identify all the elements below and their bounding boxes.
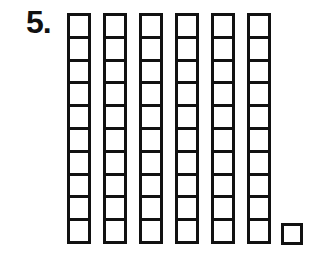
rod-cube xyxy=(214,16,232,39)
rod-cube xyxy=(70,221,88,241)
rod-cube xyxy=(106,221,124,241)
rod-cube xyxy=(214,84,232,107)
rod-cube xyxy=(178,221,196,241)
rod-cube xyxy=(250,84,268,107)
rod-cube xyxy=(142,84,160,107)
rod-cube xyxy=(142,39,160,62)
rod-cube xyxy=(106,198,124,221)
rod-cube xyxy=(250,130,268,153)
rod-cube xyxy=(106,62,124,85)
rod-cube xyxy=(70,16,88,39)
rod-cube xyxy=(250,198,268,221)
rod-cube xyxy=(142,153,160,176)
rod-cube xyxy=(106,39,124,62)
rod-cube xyxy=(214,221,232,241)
rod-cube xyxy=(106,130,124,153)
rod-cube xyxy=(250,176,268,199)
rod-cube xyxy=(178,84,196,107)
rod-cube xyxy=(106,176,124,199)
unit-cube xyxy=(281,223,303,245)
rod-cube xyxy=(214,198,232,221)
rod-cube xyxy=(250,16,268,39)
rod-cube xyxy=(250,221,268,241)
rod-cube xyxy=(70,176,88,199)
rod-cube xyxy=(178,16,196,39)
rod-cube xyxy=(70,62,88,85)
rod-cube xyxy=(250,107,268,130)
rod-cube xyxy=(214,107,232,130)
rod-cube xyxy=(142,198,160,221)
rod-cube xyxy=(250,62,268,85)
rod-cube xyxy=(178,153,196,176)
rod-cube xyxy=(142,176,160,199)
rod-cube xyxy=(106,107,124,130)
ten-rod xyxy=(247,13,271,244)
rod-cube xyxy=(178,176,196,199)
rod-cube xyxy=(142,16,160,39)
rod-cube xyxy=(178,130,196,153)
rod-cube xyxy=(214,176,232,199)
rod-cube xyxy=(214,62,232,85)
rod-cube xyxy=(142,62,160,85)
rod-cube xyxy=(106,16,124,39)
rod-cube xyxy=(142,130,160,153)
rod-cube xyxy=(106,84,124,107)
ten-rod xyxy=(103,13,127,244)
rod-cube xyxy=(214,153,232,176)
rod-cube xyxy=(70,39,88,62)
rod-cube xyxy=(214,39,232,62)
rod-cube xyxy=(70,153,88,176)
rod-cube xyxy=(106,153,124,176)
ten-rod xyxy=(139,13,163,244)
rod-cube xyxy=(178,39,196,62)
rod-cube xyxy=(142,221,160,241)
rod-cube xyxy=(70,84,88,107)
problem-number: 5. xyxy=(26,4,51,40)
ten-rod xyxy=(67,13,91,244)
rod-cube xyxy=(70,198,88,221)
rod-cube xyxy=(178,107,196,130)
rod-cube xyxy=(70,107,88,130)
rod-cube xyxy=(142,107,160,130)
rod-cube xyxy=(70,130,88,153)
rod-cube xyxy=(178,62,196,85)
rod-cube xyxy=(250,39,268,62)
ten-rod xyxy=(175,13,199,244)
rod-cube xyxy=(178,198,196,221)
rod-cube xyxy=(214,130,232,153)
ten-rod xyxy=(211,13,235,244)
rod-cube xyxy=(250,153,268,176)
